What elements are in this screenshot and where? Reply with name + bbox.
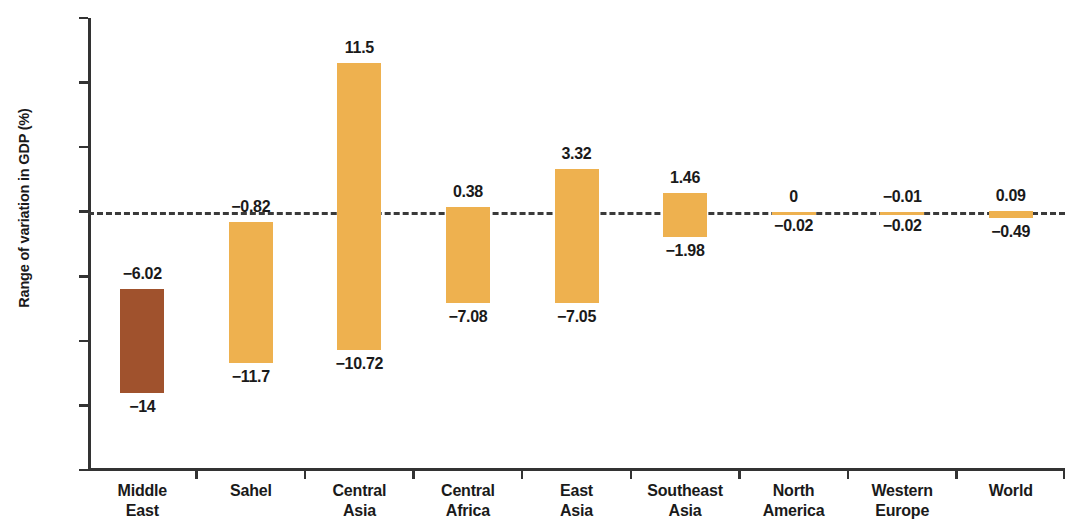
value-label-high-1: −0.82 xyxy=(191,198,311,216)
category-label-line: World xyxy=(941,481,1076,501)
bar-southeast-asia[interactable] xyxy=(663,193,707,237)
bar-central-africa[interactable] xyxy=(446,207,490,303)
value-label-low-8: −0.49 xyxy=(951,223,1071,241)
x-tick-7 xyxy=(847,468,850,479)
x-tick-8 xyxy=(955,468,958,479)
value-label-low-5: −1.98 xyxy=(625,242,745,260)
value-label-low-1: −11.7 xyxy=(191,368,311,386)
value-label-low-7: −0.02 xyxy=(842,217,962,235)
category-label-line: Europe xyxy=(832,501,972,521)
value-label-high-0: −6.02 xyxy=(82,265,202,283)
x-tick-1 xyxy=(195,468,198,479)
y-tick-5 xyxy=(79,340,88,343)
value-label-high-8: 0.09 xyxy=(951,187,1071,205)
bar-chart: Range of variation in GDP (%) 151050−5−1… xyxy=(0,0,1076,527)
y-tick-7 xyxy=(79,469,88,472)
value-label-high-3: 0.38 xyxy=(408,183,528,201)
y-tick-3 xyxy=(79,210,88,213)
y-axis-title: Range of variation in GDP (%) xyxy=(16,88,32,328)
value-label-low-2: −10.72 xyxy=(299,355,419,373)
value-label-low-4: −7.05 xyxy=(517,308,637,326)
bar-western-europe[interactable] xyxy=(880,212,924,215)
x-axis-line xyxy=(88,468,1065,471)
value-label-low-3: −7.08 xyxy=(408,308,528,326)
bar-world[interactable] xyxy=(989,211,1033,218)
value-label-high-5: 1.46 xyxy=(625,169,745,187)
value-label-high-4: 3.32 xyxy=(517,145,637,163)
bar-north-america[interactable] xyxy=(772,212,816,215)
category-label-world: World xyxy=(941,481,1076,501)
bar-central-asia[interactable] xyxy=(337,63,381,350)
bar-middle-east[interactable] xyxy=(120,289,164,392)
x-axis-end-tick xyxy=(1063,468,1066,479)
plot-area: 151050−5−10−15−20 −6.02−14−0.82−11.711.5… xyxy=(88,18,1065,470)
y-tick-2 xyxy=(79,146,88,149)
bar-east-asia[interactable] xyxy=(555,169,599,303)
value-label-high-2: 11.5 xyxy=(299,39,419,57)
x-tick-2 xyxy=(304,468,307,479)
y-tick-0 xyxy=(79,17,88,20)
category-label-line: East xyxy=(72,501,212,521)
value-label-high-6: 0 xyxy=(734,188,854,206)
value-label-low-0: −14 xyxy=(82,398,202,416)
x-tick-5 xyxy=(630,468,633,479)
value-label-high-7: −0.01 xyxy=(842,188,962,206)
x-tick-4 xyxy=(521,468,524,479)
y-tick-1 xyxy=(79,81,88,84)
x-tick-3 xyxy=(412,468,415,479)
bar-sahel[interactable] xyxy=(229,222,273,363)
x-tick-6 xyxy=(738,468,741,479)
value-label-low-6: −0.02 xyxy=(734,217,854,235)
